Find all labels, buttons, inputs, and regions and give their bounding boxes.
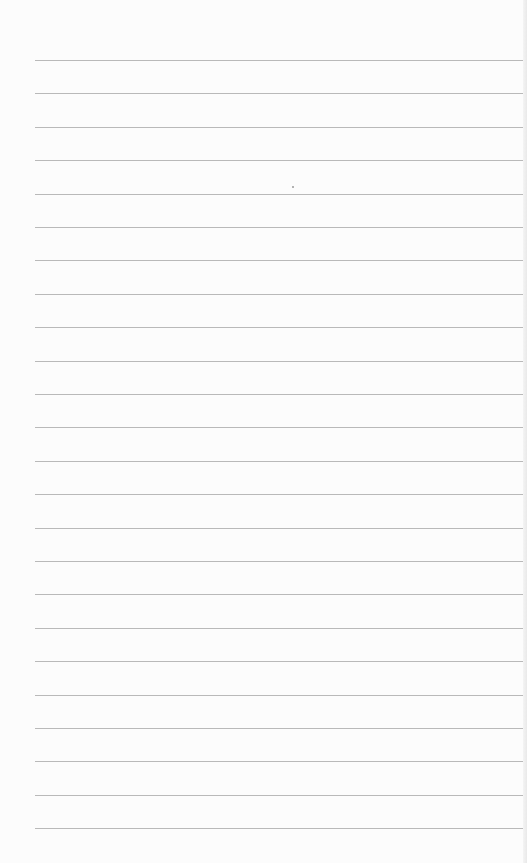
ruled-line — [35, 661, 523, 662]
paper-edge — [523, 0, 527, 863]
ruled-line — [35, 327, 523, 328]
ruled-line — [35, 828, 523, 829]
ruled-line — [35, 160, 523, 161]
ruled-line — [35, 194, 523, 195]
ruled-line — [35, 628, 523, 629]
ruled-line — [35, 728, 523, 729]
lined-paper-sheet — [0, 0, 527, 863]
ruled-line — [35, 227, 523, 228]
ruled-line — [35, 127, 523, 128]
ruled-line — [35, 494, 523, 495]
ruled-line — [35, 761, 523, 762]
ruled-line — [35, 795, 523, 796]
ruled-line — [35, 260, 523, 261]
ruled-line — [35, 93, 523, 94]
ruled-line — [35, 294, 523, 295]
ruled-line — [35, 561, 523, 562]
ruled-line — [35, 394, 523, 395]
ruled-line — [35, 427, 523, 428]
ruled-line — [35, 695, 523, 696]
ruled-line — [35, 361, 523, 362]
ruled-line — [35, 60, 523, 61]
ruled-line — [35, 528, 523, 529]
ruled-line — [35, 461, 523, 462]
ruled-line — [35, 594, 523, 595]
speck-mark — [292, 186, 294, 188]
